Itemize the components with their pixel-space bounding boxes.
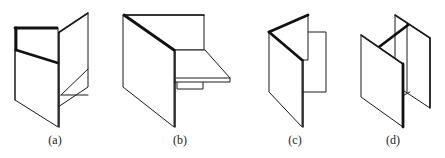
structure-d [361, 15, 430, 127]
folded-plate-figure: (a) (b) (c) (d) [0, 0, 445, 158]
label-d: (d) [386, 133, 400, 148]
structure-c [269, 15, 326, 127]
label-b: (b) [173, 133, 187, 148]
structure-b [123, 15, 230, 127]
b-shelf [174, 50, 230, 82]
label-c: (c) [288, 133, 301, 148]
diagram-svg [0, 0, 445, 158]
structure-a [15, 13, 88, 127]
label-a: (a) [48, 133, 61, 148]
a-front-panel [15, 28, 58, 127]
